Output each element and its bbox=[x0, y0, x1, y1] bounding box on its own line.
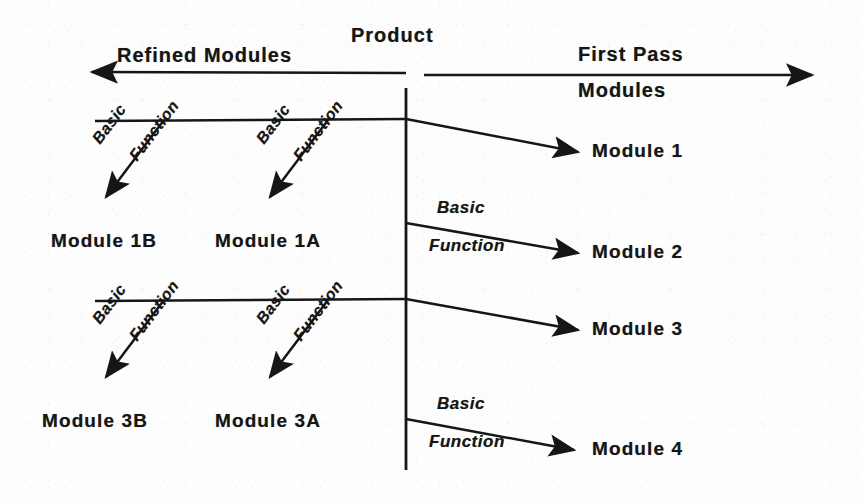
node-label-module-2: Module 2 bbox=[592, 241, 683, 263]
edge-label-function-module-2: Function bbox=[429, 236, 505, 256]
row1-branch-line bbox=[95, 119, 406, 121]
arrow-to-module-1 bbox=[406, 119, 578, 152]
axis-left-arrow bbox=[92, 72, 406, 73]
node-label-module-1b: Module 1B bbox=[51, 230, 157, 252]
node-label-module-1: Module 1 bbox=[592, 140, 683, 162]
axis-label-modules: Modules bbox=[578, 79, 666, 102]
product-title: Product bbox=[351, 24, 434, 47]
node-label-module-4: Module 4 bbox=[592, 438, 683, 460]
node-label-module-3b: Module 3B bbox=[42, 410, 148, 432]
node-label-module-3: Module 3 bbox=[592, 318, 683, 340]
axis-label-first-pass: First Pass bbox=[578, 43, 684, 66]
row3-branch-line bbox=[95, 299, 406, 301]
edge-label-basic-module-4: Basic bbox=[437, 394, 485, 414]
axis-label-refined-modules: Refined Modules bbox=[117, 44, 292, 67]
arrow-to-module-3 bbox=[406, 299, 578, 330]
edge-label-function-module-4: Function bbox=[429, 432, 505, 452]
node-label-module-3a: Module 3A bbox=[215, 410, 321, 432]
figure-canvas: Product Refined Modules First Pass Modul… bbox=[0, 0, 863, 504]
node-label-module-1a: Module 1A bbox=[215, 230, 321, 252]
edge-label-basic-module-2: Basic bbox=[437, 198, 485, 218]
